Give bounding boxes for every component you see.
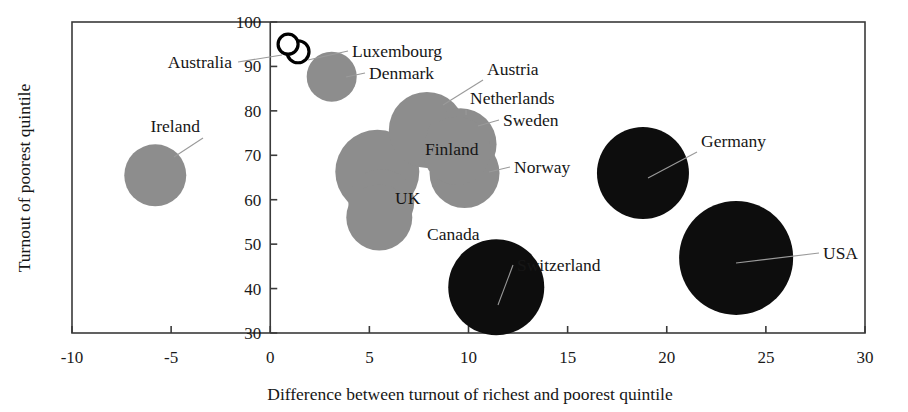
x-tick-label: 15 — [559, 348, 576, 367]
x-tick-label: -5 — [164, 348, 178, 367]
label-finland: Finland — [425, 139, 479, 159]
bubble-ireland — [124, 144, 186, 206]
x-tick-label: 30 — [857, 348, 874, 367]
y-tick-label: 100 — [236, 13, 262, 32]
label-germany: Germany — [701, 131, 766, 151]
y-tick-label: 30 — [244, 324, 261, 343]
y-tick-label: 50 — [244, 235, 261, 254]
x-tick-label: 5 — [365, 348, 374, 367]
y-tick-label: 60 — [244, 191, 261, 210]
bubble-germany — [597, 127, 689, 219]
bubble-chart: IrelandAustraliaLuxembourgDenmarkAustria… — [0, 0, 908, 412]
bubble-switzerland — [448, 239, 544, 335]
leader-ireland — [174, 138, 203, 157]
x-tick-label: 25 — [757, 348, 774, 367]
label-australia: Australia — [168, 52, 232, 72]
x-tick-label: -10 — [61, 348, 84, 367]
label-norway: Norway — [514, 157, 571, 177]
y-tick-label: 40 — [244, 280, 261, 299]
label-switzerland: Switzerland — [517, 255, 601, 275]
bubble-series — [124, 34, 793, 335]
x-axis-title: Difference between turnout of richest an… — [267, 384, 673, 404]
label-denmark: Denmark — [369, 63, 434, 83]
bubble-australia — [278, 34, 298, 54]
x-tick-label: 0 — [266, 348, 275, 367]
label-netherlands: Netherlands — [470, 88, 555, 108]
label-canada: Canada — [427, 224, 480, 244]
x-tick-label: 10 — [460, 348, 477, 367]
label-austria: Austria — [487, 59, 539, 79]
label-ireland: Ireland — [150, 116, 200, 136]
y-tick-label: 80 — [244, 102, 261, 121]
x-tick-label: 20 — [658, 348, 675, 367]
label-luxembourg: Luxembourg — [352, 41, 442, 61]
label-usa: USA — [823, 243, 858, 263]
chart-canvas: IrelandAustraliaLuxembourgDenmarkAustria… — [0, 0, 908, 412]
y-tick-label: 70 — [244, 146, 261, 165]
label-sweden: Sweden — [503, 110, 559, 130]
y-tick-label: 90 — [244, 57, 261, 76]
y-axis-title: Turnout of poorest quintile — [14, 84, 34, 273]
label-uk: UK — [395, 188, 421, 208]
